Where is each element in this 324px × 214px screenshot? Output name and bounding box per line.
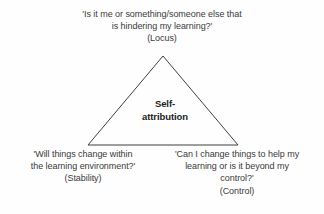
control-question-line-3: control?' [158, 172, 316, 184]
locus-question-line-1: 'Is it me or something/someone else that [47, 8, 277, 20]
locus-question-line-2: is hindering my learning?' [47, 20, 277, 32]
stability-dimension: (Stability) [8, 172, 158, 184]
vertex-label-control: 'Can I change things to help my learning… [158, 148, 316, 197]
self-attribution-diagram: Self- attribution 'Is it me or something… [0, 0, 324, 214]
stability-question-line-2: the learning environment?' [8, 160, 158, 172]
locus-dimension: (Locus) [47, 32, 277, 44]
stability-question-line-1: 'Will things change within [8, 148, 158, 160]
vertex-label-stability: 'Will things change within the learning … [8, 148, 158, 185]
center-label-line-1: Self- [130, 97, 200, 110]
vertex-label-locus: 'Is it me or something/someone else that… [47, 8, 277, 45]
center-label: Self- attribution [130, 97, 200, 123]
control-question-line-2: learning or is it beyond my [158, 160, 316, 172]
control-dimension: (Control) [158, 185, 316, 197]
control-question-line-1: 'Can I change things to help my [158, 148, 316, 160]
center-label-line-2: attribution [130, 110, 200, 123]
